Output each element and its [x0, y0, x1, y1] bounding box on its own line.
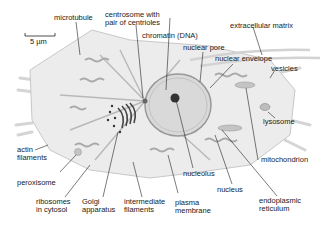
centrosome-icon	[143, 99, 148, 104]
label-golgi-line2: apparatus	[82, 206, 115, 214]
peroxisome-icon	[75, 149, 82, 156]
label-nuclear-pore: nuclear pore	[183, 44, 225, 52]
label-plasma-line2: membrane	[175, 207, 211, 215]
label-nuclear-envelope: nuclear envelope	[215, 55, 272, 63]
label-chromatin: chromatin (DNA)	[142, 32, 198, 40]
label-microtubule: microtubule	[54, 14, 93, 22]
label-actin-line2: filaments	[17, 154, 47, 162]
nucleus-shape	[145, 74, 211, 136]
label-extracellular-matrix: extracellular matrix	[230, 22, 293, 30]
label-nucleus: nucleus	[217, 186, 243, 194]
cell-diagram: 5 µm microtubule centrosome with pair of…	[0, 0, 324, 227]
label-vesicles: vesicles	[271, 65, 298, 73]
label-ribosomes-line2: in cytosol	[36, 206, 67, 214]
nucleolus-shape	[171, 94, 180, 103]
scale-bar-icon	[25, 33, 55, 36]
label-peroxisome: peroxisome	[17, 179, 56, 187]
label-er-line2: reticulum	[259, 205, 289, 213]
label-centrosome-line2: pair of centrioles	[105, 19, 160, 27]
label-lysosome: lysosome	[263, 118, 295, 126]
scale-bar-label: 5 µm	[30, 38, 47, 46]
lysosome-icon	[260, 104, 270, 111]
label-intermediate-line2: filaments	[124, 206, 154, 214]
label-mitochondrion: mitochondrion	[261, 156, 308, 164]
label-nucleolus: nucleolus	[183, 170, 215, 178]
